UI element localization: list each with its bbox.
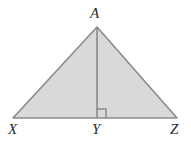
vertex-label-x: X	[8, 122, 17, 137]
vertex-label-a: A	[90, 6, 99, 21]
geometry-figure: A X Y Z	[0, 0, 191, 144]
vertex-label-z: Z	[170, 122, 178, 137]
triangle-xyz-shape	[13, 27, 177, 118]
vertex-label-y: Y	[92, 122, 100, 137]
